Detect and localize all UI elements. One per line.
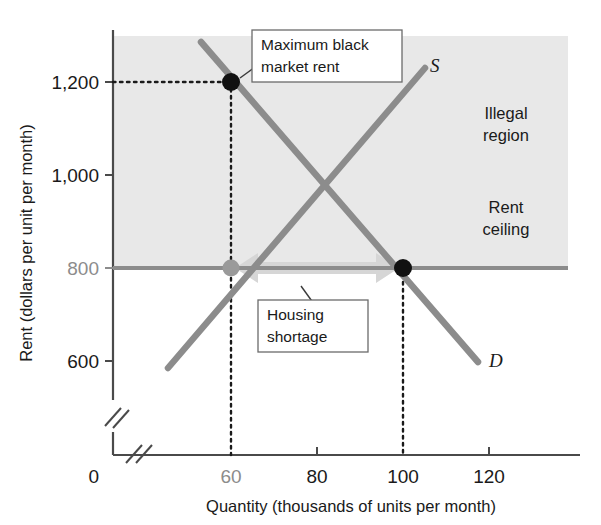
callout-shortage-line2: shortage	[267, 328, 327, 345]
demand-curve-label: D	[488, 350, 503, 371]
chart-canvas: Maximum black market rent Housing shorta…	[0, 0, 601, 525]
rent-ceiling-label-line1: Rent	[489, 198, 524, 216]
x-axis-title: Quantity (thousands of units per month)	[206, 497, 496, 515]
marker-quantity-supplied-at-ceiling	[223, 260, 240, 277]
rent-ceiling-label-line2: ceiling	[483, 220, 530, 238]
x-tick-label-120: 120	[473, 466, 505, 487]
origin-label: 0	[88, 466, 99, 487]
y-tick-label-1000: 1,000	[51, 165, 99, 186]
y-tick-label-1200: 1,200	[51, 72, 99, 93]
callout-max-rent-line2: market rent	[261, 58, 340, 75]
y-tick-label-800: 800	[67, 258, 99, 279]
illegal-region-label-line1: Illegal	[484, 104, 527, 122]
rent-ceiling-chart: Maximum black market rent Housing shorta…	[0, 0, 601, 525]
callout-shortage-line1: Housing	[267, 306, 324, 323]
marker-quantity-demanded-at-ceiling	[394, 259, 412, 277]
y-tick-label-600: 600	[67, 351, 99, 372]
callout-max-rent-line1: Maximum black	[261, 36, 369, 53]
illegal-region-label-line2: region	[483, 126, 529, 144]
x-tick-label-60: 60	[220, 466, 241, 487]
x-tick-label-100: 100	[387, 466, 419, 487]
y-axis-title: Rent (dollars per unit per month)	[17, 124, 35, 362]
callout-housing-shortage: Housing shortage	[258, 300, 368, 352]
x-tick-label-80: 80	[306, 466, 327, 487]
callout-max-black-market-rent: Maximum black market rent	[252, 30, 402, 82]
supply-curve-label: S	[430, 55, 440, 76]
marker-max-black-market-rent	[222, 73, 240, 91]
y-axis-break-icon	[105, 408, 129, 428]
